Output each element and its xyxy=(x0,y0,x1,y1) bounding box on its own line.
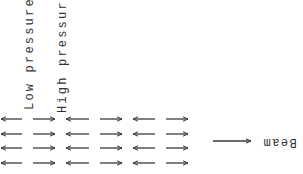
beam-label: Beam xyxy=(262,136,297,148)
arrow-grid xyxy=(0,0,303,174)
